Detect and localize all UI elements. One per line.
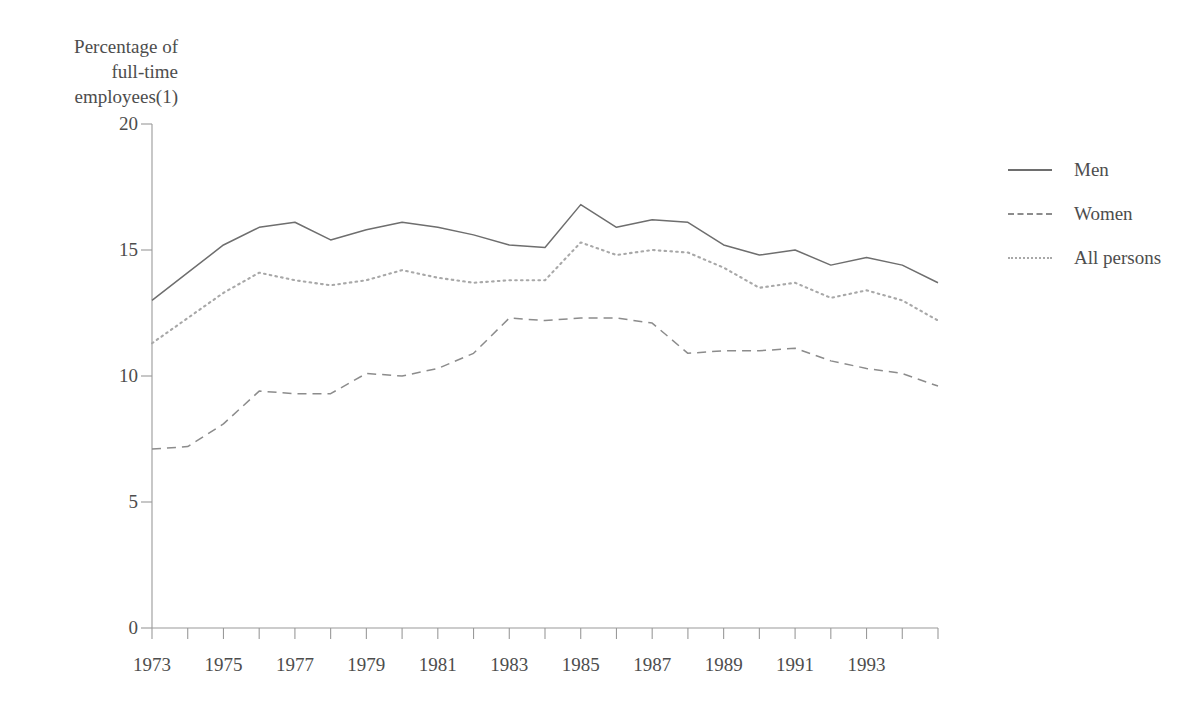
chart-legend: Men Women All persons bbox=[1008, 148, 1178, 280]
x-tick-label-1973: 1973 bbox=[133, 654, 171, 676]
y-tick-label-5: 5 bbox=[80, 491, 138, 513]
series-line-men bbox=[152, 205, 938, 301]
y-tick-label-10: 10 bbox=[80, 365, 138, 387]
x-tick-label-1985: 1985 bbox=[562, 654, 600, 676]
legend-label-women: Women bbox=[1074, 203, 1133, 225]
legend-item-women: Women bbox=[1008, 192, 1178, 236]
x-tick-label-1989: 1989 bbox=[705, 654, 743, 676]
legend-swatch-women bbox=[1008, 213, 1052, 215]
x-tick-label-1975: 1975 bbox=[204, 654, 242, 676]
legend-swatch-men bbox=[1008, 169, 1052, 171]
x-tick-label-1993: 1993 bbox=[848, 654, 886, 676]
x-tick-label-1983: 1983 bbox=[490, 654, 528, 676]
x-tick-label-1981: 1981 bbox=[419, 654, 457, 676]
legend-label-all-persons: All persons bbox=[1074, 247, 1161, 269]
y-tick-label-15: 15 bbox=[80, 239, 138, 261]
series-line-women bbox=[152, 318, 938, 449]
line-chart-canvas bbox=[0, 0, 1181, 717]
y-tick-label-20: 20 bbox=[80, 113, 138, 135]
legend-label-men: Men bbox=[1074, 159, 1109, 181]
x-tick-label-1979: 1979 bbox=[347, 654, 385, 676]
y-tick-label-0: 0 bbox=[80, 617, 138, 639]
legend-swatch-all-persons bbox=[1008, 257, 1052, 259]
x-tick-label-1977: 1977 bbox=[276, 654, 314, 676]
series-line-all-persons bbox=[152, 242, 938, 343]
legend-item-all-persons: All persons bbox=[1008, 236, 1178, 280]
chart-figure: Percentage of full-time employees(1) 051… bbox=[0, 0, 1181, 717]
x-tick-label-1987: 1987 bbox=[633, 654, 671, 676]
legend-item-men: Men bbox=[1008, 148, 1178, 192]
x-tick-label-1991: 1991 bbox=[776, 654, 814, 676]
